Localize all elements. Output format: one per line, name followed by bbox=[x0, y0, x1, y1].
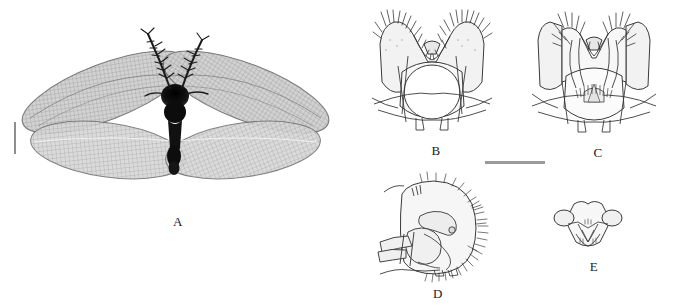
figure-plate: B bbox=[0, 0, 675, 306]
panel-a-label: A bbox=[166, 214, 190, 230]
panel-a-habitus bbox=[10, 8, 340, 218]
panel-e-sclerite bbox=[552, 198, 624, 256]
panel-b-genitalia-dorsal bbox=[372, 10, 492, 138]
panel-d-genitalia-lateral bbox=[378, 176, 506, 286]
panel-e-label: E bbox=[582, 259, 606, 275]
scale-bar-genitalia bbox=[485, 161, 545, 164]
panel-c-label: C bbox=[586, 145, 610, 161]
scale-bar-panel-a bbox=[14, 122, 16, 154]
panel-c-genitalia-ventral bbox=[532, 10, 656, 138]
panel-b-label: B bbox=[424, 143, 448, 159]
panel-d-label: D bbox=[426, 286, 450, 302]
